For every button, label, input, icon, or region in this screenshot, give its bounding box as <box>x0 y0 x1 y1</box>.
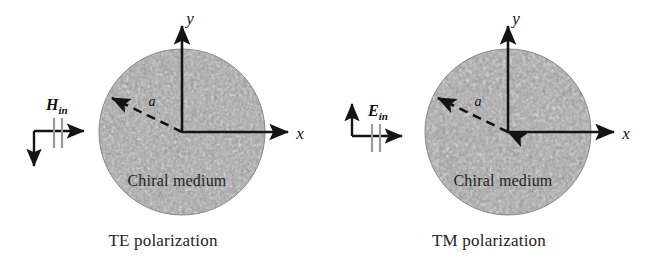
y-axis-label: y <box>184 9 194 28</box>
panel-te-caption: TE polarization <box>0 231 326 251</box>
y-axis-label: y <box>510 9 520 28</box>
field-symbol: H <box>45 96 59 113</box>
radius-label-a: a <box>149 94 156 109</box>
chiral-medium-label: Chiral medium <box>453 172 552 189</box>
incident-field-marker-h <box>34 118 84 166</box>
panel-tm-polarization: y x a Chiral medium Ein TM polarization <box>326 0 652 272</box>
radius-label-a: a <box>475 94 482 109</box>
x-axis-label: x <box>621 124 630 143</box>
panel-te-polarization: y x a Chiral medium Hin TE polarization <box>0 0 326 272</box>
panel-tm-caption: TM polarization <box>326 231 652 251</box>
field-subscript: in <box>58 104 67 116</box>
x-axis-label: x <box>295 124 304 143</box>
chiral-medium-label: Chiral medium <box>127 172 226 189</box>
field-subscript: in <box>379 110 388 122</box>
incident-field-label-h: Hin <box>45 96 68 116</box>
chiral-medium-polarization-figure: y x a Chiral medium Hin TE polarization <box>0 0 652 272</box>
field-symbol: E <box>367 102 379 119</box>
incident-field-label-e: Ein <box>367 102 388 122</box>
